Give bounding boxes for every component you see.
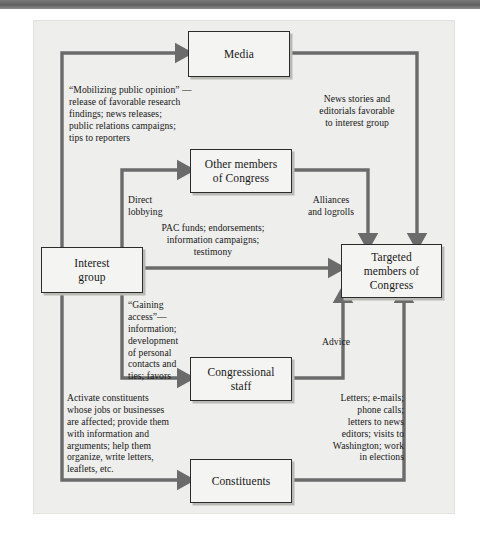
node-constituents-label: Constituents — [209, 474, 274, 488]
label-alliances-and-logrolls: Alliances and logrolls — [294, 194, 368, 218]
label-gaining-access: “Gaining access”— information; developme… — [128, 299, 198, 382]
label-activate-constituents: Activate constituents whose jobs or busi… — [67, 392, 195, 475]
node-interest-group[interactable]: Interest group — [41, 247, 143, 293]
label-mobilizing-public-opinion: “Mobilizing public opinion” — release of… — [69, 84, 244, 143]
node-other-members-label: Other members of Congress — [202, 157, 281, 185]
label-advice: Advice — [322, 336, 372, 348]
top-band-fill — [0, 0, 480, 9]
node-targeted-members[interactable]: Targeted members of Congress — [341, 244, 442, 298]
label-news-stories: News stories and editorials favorable to… — [306, 93, 408, 129]
figure-root: Media Other members of Congress Interest… — [0, 0, 480, 533]
top-band — [0, 0, 480, 9]
node-congressional-staff-label: Congressional staff — [204, 365, 277, 393]
label-direct-lobbying: Direct lobbying — [128, 194, 188, 218]
node-constituents[interactable]: Constituents — [190, 459, 292, 503]
node-other-members[interactable]: Other members of Congress — [190, 149, 292, 193]
node-media[interactable]: Media — [188, 31, 290, 77]
node-interest-group-label: Interest group — [71, 256, 112, 284]
label-pac-funds: PAC funds; endorsements; information cam… — [143, 222, 283, 258]
node-congressional-staff[interactable]: Congressional staff — [190, 357, 292, 401]
node-media-label: Media — [221, 47, 257, 61]
node-targeted-members-label: Targeted members of Congress — [361, 250, 423, 292]
label-letters-emails: Letters; e-mails; phone calls; letters t… — [296, 392, 404, 463]
